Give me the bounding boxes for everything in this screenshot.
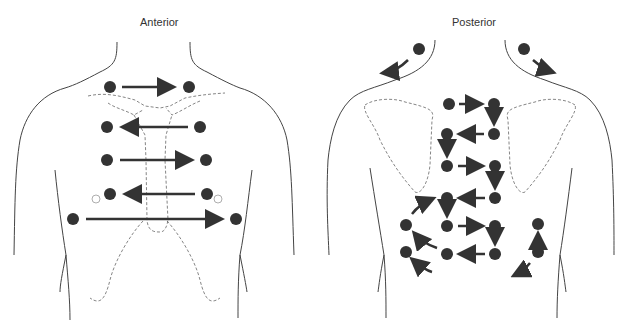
posterior-dashed-scapulae — [365, 99, 576, 192]
posterior-points — [400, 43, 544, 260]
anterior-body-outline — [14, 42, 294, 320]
posterior-arrows — [384, 60, 552, 275]
posterior-body-outline — [327, 40, 614, 318]
auscultation-diagram: Anterior Posterior — [0, 0, 625, 330]
anterior-points — [67, 81, 242, 225]
diagram-canvas — [0, 0, 625, 330]
